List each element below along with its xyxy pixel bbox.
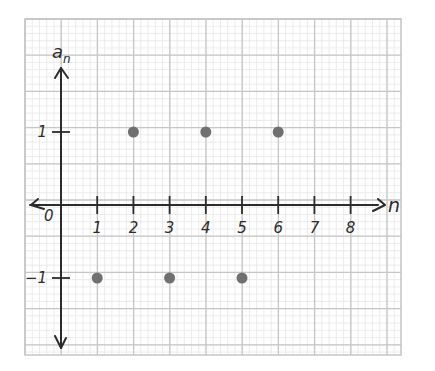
y-tick-label: −1 (25, 269, 47, 287)
x-tick-label: 8 (346, 219, 356, 237)
y-tick-label: 1 (37, 123, 47, 141)
data-point (92, 273, 103, 284)
x-tick-label: 4 (201, 219, 211, 237)
x-tick-label: 1 (92, 219, 102, 237)
data-point (128, 127, 139, 138)
sequence-plot: 123456781−1 n an 0 (0, 0, 435, 371)
data-point (164, 273, 175, 284)
x-axis-label: n (388, 194, 400, 216)
origin-label: 0 (44, 207, 54, 225)
x-tick-label: 7 (310, 219, 320, 237)
minor-grid (25, 19, 401, 355)
x-tick-label: 6 (273, 219, 283, 237)
y-axis-label-base: a (52, 41, 63, 62)
x-tick-label: 2 (129, 219, 139, 237)
x-tick-label: 3 (165, 219, 175, 237)
x-tick-label: 5 (237, 219, 247, 237)
data-point (200, 127, 211, 138)
data-point (237, 273, 248, 284)
y-axis-label-subscript: n (63, 52, 71, 66)
data-point (273, 127, 284, 138)
